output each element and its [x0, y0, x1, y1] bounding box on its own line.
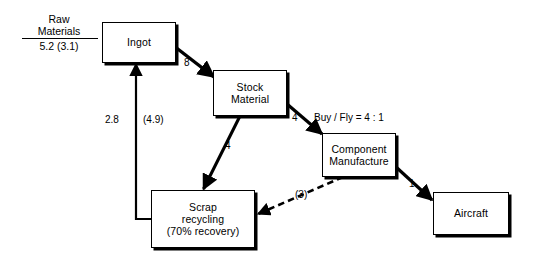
edge-label-scrap-to-ingot-secondary: (4.9): [143, 114, 164, 125]
edge-ingot-to-stock: [177, 48, 215, 77]
node-component-manufacture-label: Component Manufacture: [329, 143, 388, 167]
edge-label-stock-to-component: 4: [292, 112, 298, 123]
node-scrap-recycling[interactable]: Scrap recycling (70% recovery): [151, 190, 255, 248]
node-stock-material[interactable]: Stock Material: [213, 70, 287, 116]
edge-scrap-to-ingot: [136, 64, 152, 219]
edge-label-scrap-to-ingot-primary: 2.8: [105, 114, 119, 125]
edge-label-ingot-to-stock: 8: [184, 57, 190, 68]
annotation-buy-fly-ratio: Buy / Fly = 4 : 1: [314, 112, 384, 123]
node-aircraft-label: Aircraft: [454, 207, 488, 219]
edge-label-stock-to-scrap: 4: [225, 140, 231, 151]
edge-stock-to-scrap: [204, 116, 241, 189]
edge-label-component-to-scrap: (3): [295, 189, 307, 200]
node-scrap-recycling-label: Scrap recycling (70% recovery): [167, 201, 240, 238]
node-component-manufacture[interactable]: Component Manufacture: [322, 133, 396, 177]
node-stock-material-label: Stock Material: [231, 81, 269, 105]
node-aircraft[interactable]: Aircraft: [433, 192, 509, 235]
raw-materials-divider: [22, 38, 98, 39]
raw-materials-label: Raw Materials 5.2 (3.1): [22, 14, 96, 52]
node-ingot[interactable]: Ingot: [102, 22, 176, 63]
material-flow-diagram: Raw Materials 5.2 (3.1) Ingot Stock Mate…: [0, 0, 537, 267]
raw-materials-value: 5.2 (3.1): [22, 40, 96, 52]
node-ingot-label: Ingot: [127, 36, 151, 48]
raw-materials-title: Raw Materials: [22, 14, 96, 37]
edge-label-component-to-aircraft: 1: [409, 178, 415, 189]
